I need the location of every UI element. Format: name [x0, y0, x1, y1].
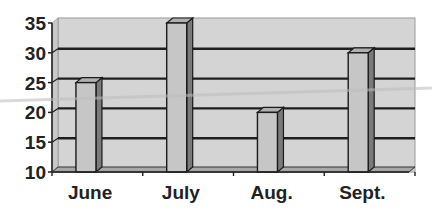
- x-category-label: Sept.: [339, 182, 385, 203]
- x-category-label: July: [162, 182, 200, 203]
- x-axis: JuneJulyAug.Sept.: [52, 172, 415, 203]
- bar-chart: 101520253035 JuneJulyAug.Sept.: [0, 0, 432, 213]
- y-tick-label: 20: [25, 102, 46, 123]
- x-category-label: June: [68, 182, 112, 203]
- y-tick-label: 35: [25, 13, 47, 34]
- bar-aug: [257, 107, 283, 172]
- y-tick-label: 30: [25, 43, 46, 64]
- y-axis: 101520253035: [25, 13, 52, 183]
- y-tick-label: 10: [25, 162, 46, 183]
- bar-june: [76, 78, 102, 172]
- bar-sept: [348, 48, 374, 172]
- y-tick-label: 15: [25, 132, 47, 153]
- y-tick-label: 25: [25, 73, 47, 94]
- x-category-label: Aug.: [251, 182, 293, 203]
